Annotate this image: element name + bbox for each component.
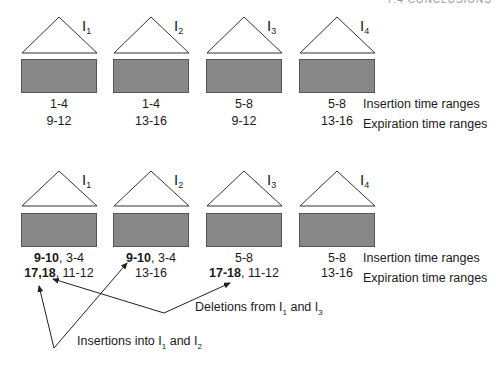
expiration-range: 9-12 xyxy=(206,114,282,129)
index-label: I3 xyxy=(267,18,276,39)
index-box xyxy=(21,59,97,93)
index-label: I1 xyxy=(82,172,91,193)
insertion-range: 9-10, 3-4 xyxy=(21,251,97,266)
index-box xyxy=(21,213,97,247)
deletions-annotation: Deletions from I1 and I3 xyxy=(195,300,323,320)
index-label: I4 xyxy=(360,172,369,193)
index-label: I4 xyxy=(360,18,369,39)
expiration-legend-label: Expiration time ranges xyxy=(363,271,487,286)
insertion-legend-label: Insertion time ranges xyxy=(363,97,480,112)
index-label: I2 xyxy=(174,172,183,193)
expiration-range: 17-18, 11-12 xyxy=(206,266,282,281)
index-label: I2 xyxy=(174,18,183,39)
index-box xyxy=(206,213,282,247)
bottom-triangles xyxy=(22,171,375,206)
insertions-annotation: Insertions into I1 and I2 xyxy=(77,334,202,354)
expiration-range: 13-16 xyxy=(113,266,189,281)
expiration-legend-label: Expiration time ranges xyxy=(363,117,487,132)
index-label: I1 xyxy=(82,18,91,39)
insertion-range: 5-8 xyxy=(206,251,282,266)
index-label: I3 xyxy=(267,172,276,193)
index-box xyxy=(299,59,375,93)
insertion-legend-label: Insertion time ranges xyxy=(363,251,480,266)
expiration-range: 9-12 xyxy=(21,114,97,129)
index-box xyxy=(206,59,282,93)
insertion-range: 1-4 xyxy=(113,97,189,112)
top-triangles xyxy=(22,17,375,53)
index-box xyxy=(113,59,189,93)
insertion-range: 5-8 xyxy=(206,97,282,112)
insertion-range: 9-10, 3-4 xyxy=(113,251,189,266)
index-box xyxy=(113,213,189,247)
expiration-range: 17,18, 11-12 xyxy=(21,266,97,281)
insertion-range: 1-4 xyxy=(21,97,97,112)
index-box xyxy=(299,213,375,247)
expiration-range: 13-16 xyxy=(113,114,189,129)
